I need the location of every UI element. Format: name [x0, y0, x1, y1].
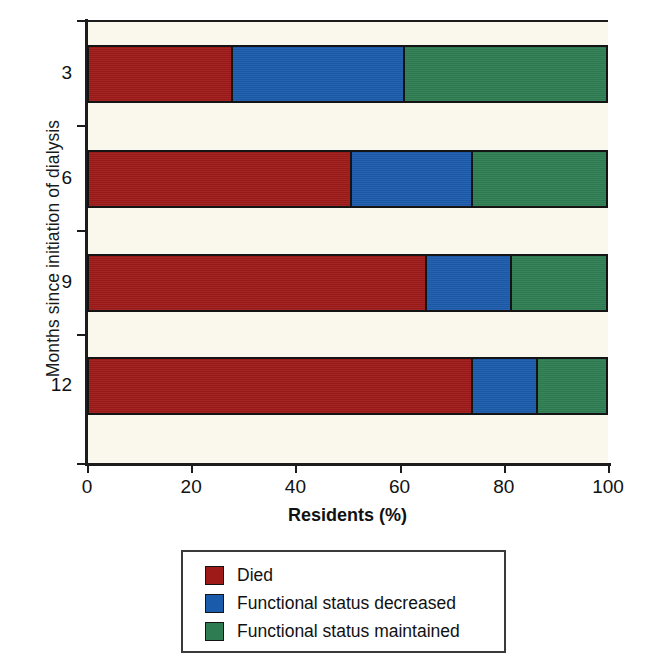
- legend-label: Died: [237, 565, 273, 586]
- y-axis-tick: [77, 20, 86, 22]
- x-axis-tick: [504, 464, 506, 473]
- bar-segment-functional-status-decreased: [352, 152, 473, 206]
- y-tick-label: 9: [0, 271, 72, 293]
- bar-segment-died: [89, 47, 233, 101]
- x-axis-tick: [608, 464, 610, 473]
- x-axis-line: [85, 463, 611, 466]
- bar-segment-functional-status-maintained: [538, 359, 606, 413]
- x-axis-tick: [87, 464, 89, 473]
- bar-segment-functional-status-maintained: [512, 256, 606, 310]
- x-tick-label: 80: [474, 476, 534, 498]
- x-axis-title: Residents (%): [87, 505, 608, 526]
- legend: DiedFunctional status decreasedFunctiona…: [181, 550, 506, 653]
- x-axis-tick: [295, 464, 297, 473]
- bar-row: [87, 357, 608, 415]
- legend-swatch-icon: [205, 566, 224, 585]
- x-tick-label: 60: [370, 476, 430, 498]
- bar-segment-functional-status-decreased: [473, 359, 538, 413]
- x-axis-tick: [400, 464, 402, 473]
- y-tick-label: 12: [0, 374, 72, 396]
- legend-label: Functional status maintained: [237, 621, 460, 642]
- x-tick-label: 20: [161, 476, 221, 498]
- bar-segment-died: [89, 256, 427, 310]
- bar-segment-functional-status-decreased: [427, 256, 512, 310]
- bar-segment-functional-status-maintained: [405, 47, 606, 101]
- bar-segment-died: [89, 152, 352, 206]
- bar-row: [87, 45, 608, 103]
- stacked-bar-chart: Months since initiation of dialysis 3691…: [0, 0, 650, 668]
- legend-item: Functional status maintained: [205, 618, 460, 644]
- x-tick-label: 0: [57, 476, 117, 498]
- x-axis-tick: [191, 464, 193, 473]
- legend-swatch-icon: [205, 594, 224, 613]
- x-tick-label: 100: [578, 476, 638, 498]
- bar-segment-functional-status-decreased: [233, 47, 406, 101]
- bar-row: [87, 150, 608, 208]
- bar-segment-died: [89, 359, 473, 413]
- legend-label: Functional status decreased: [237, 593, 456, 614]
- y-axis-tick: [77, 125, 86, 127]
- y-axis-tick: [77, 230, 86, 232]
- bar-row: [87, 254, 608, 312]
- bar-segment-functional-status-maintained: [473, 152, 606, 206]
- y-tick-label: 3: [0, 62, 72, 84]
- legend-swatch-icon: [205, 622, 224, 641]
- legend-item: Died: [205, 562, 273, 588]
- y-axis-tick: [77, 334, 86, 336]
- y-axis-tick: [77, 463, 86, 465]
- legend-item: Functional status decreased: [205, 590, 456, 616]
- x-tick-label: 40: [265, 476, 325, 498]
- y-tick-label: 6: [0, 167, 72, 189]
